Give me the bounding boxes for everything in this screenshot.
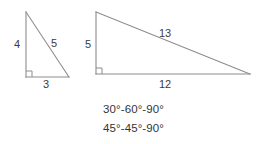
label-triangle-3-4-5-leg-vertical: 4 — [14, 39, 20, 50]
triangle-5-12-13 — [96, 12, 250, 74]
triangle-5-12-13-right-angle-marker — [96, 68, 102, 74]
triangle-3-4-5-right-angle-marker — [26, 71, 32, 77]
label-triangle-3-4-5-hypotenuse: 5 — [51, 38, 57, 49]
triangle-5-12-13-hypotenuse — [96, 12, 250, 74]
label-triangle-3-4-5-leg-horizontal: 3 — [43, 79, 49, 90]
geometry-figure: 4 5 3 5 13 12 30°-60°-90° 45°-45°-90° — [0, 0, 267, 144]
caption-block: 30°-60°-90° 45°-45°-90° — [0, 100, 267, 138]
label-triangle-5-12-13-hypotenuse: 13 — [159, 28, 171, 39]
triangle-3-4-5-hypotenuse — [26, 12, 69, 77]
triangle-3-4-5 — [26, 12, 69, 77]
caption-line-special-triangle-2: 45°-45°-90° — [0, 119, 267, 138]
label-triangle-5-12-13-leg-vertical: 5 — [85, 39, 91, 50]
caption-line-special-triangle-1: 30°-60°-90° — [0, 100, 267, 119]
label-triangle-5-12-13-leg-horizontal: 12 — [159, 79, 171, 90]
